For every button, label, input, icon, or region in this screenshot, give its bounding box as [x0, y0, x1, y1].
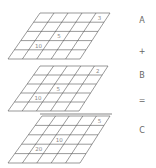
- cell-value: 3: [98, 15, 102, 21]
- label-c: C: [136, 126, 148, 135]
- grid-col-line: [51, 13, 82, 59]
- grid-col-line: [8, 116, 42, 163]
- grid-col-line: [8, 66, 40, 111]
- label-a: A: [136, 16, 148, 25]
- grid-col-line: [22, 13, 54, 59]
- grid-col-line: [37, 116, 69, 163]
- grid-c: 51020: [8, 116, 110, 163]
- grid-col-line: [22, 66, 53, 111]
- grid-col-line: [66, 13, 96, 59]
- grid-col-line: [80, 116, 110, 163]
- grid-col-line: [51, 66, 81, 111]
- grid-col-line: [22, 116, 55, 163]
- equals-sign: =: [136, 96, 148, 105]
- matrix-addition-diagram: 3510 2510 51020: [0, 0, 156, 168]
- cell-value: 20: [35, 146, 42, 152]
- grid-col-line: [80, 13, 110, 59]
- grid-b: 2510: [8, 66, 108, 111]
- grid-col-line: [79, 66, 108, 111]
- plus-sign: +: [136, 47, 148, 56]
- grid-col-line: [65, 66, 95, 111]
- grid-col-line: [36, 66, 67, 111]
- cell-value: 10: [35, 95, 42, 101]
- cell-value: 10: [35, 43, 42, 49]
- grid-col-line: [66, 116, 97, 163]
- cell-value: 5: [57, 33, 61, 39]
- label-b: B: [136, 71, 148, 80]
- cell-value: 10: [56, 137, 63, 143]
- cell-value: 5: [56, 86, 60, 92]
- cell-value: 5: [98, 118, 102, 124]
- grid-a: 3510: [8, 13, 110, 59]
- grid-col-line: [8, 13, 40, 59]
- grid-col-line: [37, 13, 68, 59]
- cell-value: 2: [96, 68, 100, 74]
